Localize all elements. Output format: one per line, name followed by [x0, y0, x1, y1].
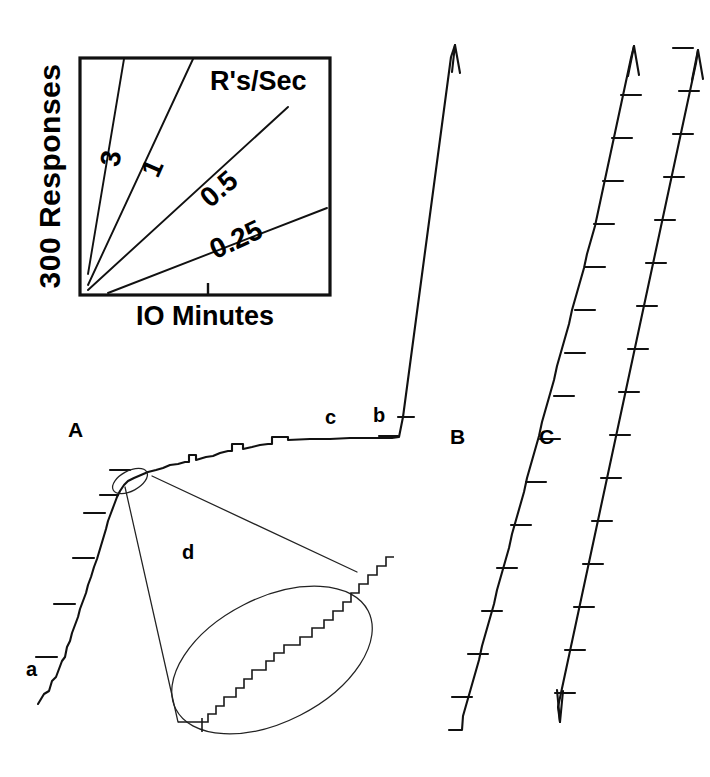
figure-root: 3 1 0.5 0.25 R's/Sec 300 Responses IO Mi… [0, 0, 710, 777]
annotation-label-d: d [182, 541, 194, 563]
annotation-label-b: b [373, 404, 385, 426]
record-label-c: C [539, 425, 554, 448]
callout-projection-line-bottom [125, 487, 178, 722]
legend-slope-label-3: 3 [94, 148, 127, 169]
record-c-hatch-marks [555, 48, 699, 693]
record-c-group: C [539, 48, 703, 722]
record-b-curve [449, 46, 634, 730]
legend-slope-label-0-5: 0.5 [194, 164, 244, 213]
legend-y-axis-label: 300 Responses [33, 64, 66, 289]
magnification-callout-group: d [109, 463, 397, 764]
record-label-b: B [450, 425, 465, 448]
legend-units-label: R's/Sec [210, 66, 306, 96]
annotation-label-c: c [325, 406, 336, 428]
legend-group: 3 1 0.5 0.25 R's/Sec 300 Responses IO Mi… [33, 58, 330, 331]
legend-slope-label-1: 1 [135, 155, 170, 182]
record-c-pen-reset-top [692, 50, 703, 80]
record-b-hatch-marks [452, 95, 641, 697]
record-a-hatch-marks [36, 417, 414, 657]
cumulative-record-figure: 3 1 0.5 0.25 R's/Sec 300 Responses IO Mi… [0, 0, 710, 777]
record-c-curve [558, 50, 698, 722]
magnified-staircase [178, 557, 394, 722]
annotation-label-a: a [26, 658, 38, 680]
record-label-a: A [68, 418, 83, 441]
record-b-group: B [449, 46, 641, 730]
legend-slope-label-0-25: 0.25 [205, 214, 267, 265]
legend-x-axis-label: IO Minutes [136, 301, 274, 331]
